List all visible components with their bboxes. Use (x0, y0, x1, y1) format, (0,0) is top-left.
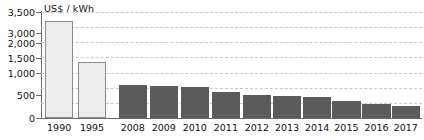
x-axis-label-2009: 2009 (152, 122, 176, 133)
gridline (41, 57, 422, 58)
y-axis-tick (36, 73, 41, 74)
x-axis-label-2016: 2016 (364, 122, 388, 133)
x-axis-label-2014: 2014 (305, 122, 329, 133)
y-axis-tick-label: 1,500 (1, 53, 35, 64)
y-axis-tick-label: 1,000 (1, 68, 35, 79)
x-axis-label-1990: 1990 (47, 122, 71, 133)
bar-2014 (303, 97, 331, 118)
bar-2012 (243, 95, 271, 118)
gridline (41, 27, 422, 28)
bar-2008 (119, 85, 147, 118)
y-axis-tick-label: 500 (1, 90, 35, 101)
x-axis-label-2010: 2010 (183, 122, 207, 133)
bar-2017 (392, 106, 420, 118)
bar-2010 (181, 87, 209, 118)
y-axis-tick (36, 12, 41, 13)
gridline (41, 12, 422, 13)
bar-2015 (332, 101, 360, 118)
x-axis-label-1995: 1995 (80, 122, 104, 133)
y-axis-tick (36, 118, 41, 119)
y-axis-tick (36, 58, 41, 59)
bar-1990 (45, 21, 73, 118)
bar-1995 (78, 62, 106, 118)
y-axis-tick (36, 43, 41, 44)
gridline (41, 42, 422, 43)
bar-2009 (150, 86, 178, 118)
bar-2011 (212, 92, 240, 118)
bar-2013 (273, 96, 301, 118)
x-axis-label-2013: 2013 (275, 122, 299, 133)
y-axis-tick-label: 0 (1, 113, 35, 124)
bar-2016 (362, 104, 390, 118)
x-axis-label-2015: 2015 (334, 122, 358, 133)
x-axis-label-2017: 2017 (394, 122, 418, 133)
x-axis-label-2012: 2012 (245, 122, 269, 133)
y-axis-tick-label: 3,500 (1, 7, 35, 18)
y-axis-tick (36, 33, 41, 34)
x-axis-line (41, 118, 422, 119)
y-axis-tick-label: 2,000 (1, 38, 35, 49)
x-axis-label-2011: 2011 (214, 122, 238, 133)
chart-container: US$ / kWh 3,5003,0002,0001,5001,0005000 … (0, 0, 424, 140)
y-axis-tick (36, 95, 41, 96)
x-axis-label-2008: 2008 (121, 122, 145, 133)
